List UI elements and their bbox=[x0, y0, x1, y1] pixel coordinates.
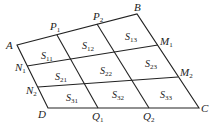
vertex-a-label: A bbox=[5, 39, 13, 51]
cell-s21-label: S21 bbox=[55, 71, 68, 84]
point-p1-label: P1 bbox=[49, 20, 61, 34]
cell-s12-label: S12 bbox=[82, 40, 95, 53]
point-m2-label: M2 bbox=[179, 66, 193, 80]
cell-s23-label: S23 bbox=[145, 58, 158, 71]
cell-s31-label: S31 bbox=[66, 92, 79, 105]
vertex-c-label: C bbox=[201, 102, 209, 114]
cell-s13-label: S13 bbox=[125, 31, 138, 44]
vertex-d-label: D bbox=[37, 108, 46, 120]
point-n2-label: N2 bbox=[25, 84, 37, 98]
point-q2-label: Q2 bbox=[143, 110, 155, 124]
cell-s32-label: S32 bbox=[112, 89, 125, 102]
point-p2-label: P2 bbox=[92, 10, 104, 24]
cell-s33-label: S33 bbox=[160, 89, 173, 102]
point-n1-label: N1 bbox=[14, 61, 26, 75]
vertex-b-label: B bbox=[134, 1, 141, 13]
point-q1-label: Q1 bbox=[92, 110, 104, 124]
diagram-canvas: A B C D P1 P2 M1 M2 N1 N2 Q1 Q2 S11 S12 … bbox=[0, 0, 210, 131]
cell-s11-label: S11 bbox=[41, 50, 53, 63]
point-m1-label: M1 bbox=[159, 35, 173, 49]
cell-s22-label: S22 bbox=[100, 65, 113, 78]
